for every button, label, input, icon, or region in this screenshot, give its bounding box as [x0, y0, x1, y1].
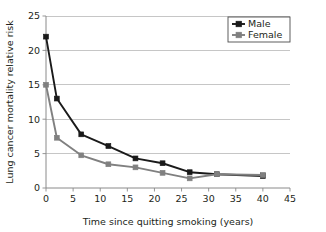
x-tick-label-30: 30: [203, 193, 215, 204]
y-tick-label-25: 25: [28, 10, 40, 21]
legend-label-male: Male: [248, 18, 271, 29]
chart-canvas: 0510152025 051015202530354045 Time since…: [0, 0, 326, 232]
legend: Male Female: [228, 17, 290, 42]
data-point-female-7: [214, 172, 219, 177]
data-point-male-5: [160, 161, 165, 166]
lung-cancer-mortality-chart: 0510152025 051015202530354045 Time since…: [0, 0, 326, 232]
data-point-female-8: [260, 173, 265, 178]
data-point-female-5: [160, 170, 165, 175]
y-tick-label-0: 0: [34, 182, 40, 193]
x-tick-label-40: 40: [257, 193, 269, 204]
data-point-male-2: [79, 132, 84, 137]
y-tick-label-15: 15: [28, 79, 40, 90]
data-point-male-6: [187, 170, 192, 175]
data-point-male-3: [106, 144, 111, 149]
x-tick-label-0: 0: [43, 193, 49, 204]
x-axis-ticks-group: 051015202530354045: [43, 188, 296, 204]
data-point-female-6: [187, 176, 192, 181]
data-point-female-4: [133, 165, 138, 170]
x-tick-label-25: 25: [176, 193, 188, 204]
x-tick-label-5: 5: [70, 193, 76, 204]
x-tick-label-20: 20: [148, 193, 160, 204]
legend-swatch-male-marker: [236, 21, 242, 27]
x-axis-title: Time since quitting smoking (years): [82, 216, 254, 227]
y-tick-label-5: 5: [34, 148, 40, 159]
y-axis-title: Lung cancer mortality relative risk: [4, 20, 15, 184]
y-tick-label-10: 10: [28, 114, 40, 125]
data-point-female-0: [44, 82, 49, 87]
data-point-male-1: [54, 96, 59, 101]
x-tick-label-10: 10: [94, 193, 106, 204]
x-tick-label-35: 35: [230, 193, 242, 204]
y-tick-label-20: 20: [28, 45, 40, 56]
legend-swatch-female-marker: [236, 32, 242, 38]
data-point-female-3: [106, 162, 111, 167]
legend-label-female: Female: [248, 29, 283, 40]
data-point-male-0: [44, 34, 49, 39]
data-point-female-1: [54, 135, 59, 140]
data-point-male-4: [133, 156, 138, 161]
data-point-female-2: [79, 153, 84, 158]
x-tick-label-15: 15: [121, 193, 133, 204]
x-tick-label-45: 45: [284, 193, 296, 204]
